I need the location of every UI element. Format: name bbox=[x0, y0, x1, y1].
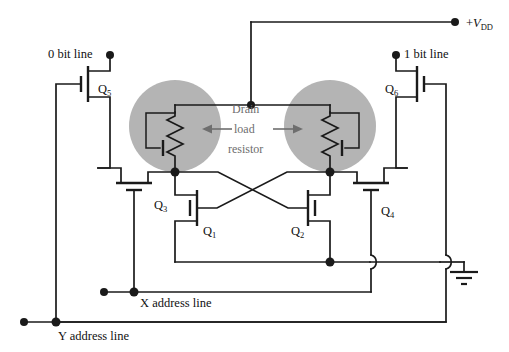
transistor-q1 bbox=[175, 172, 197, 262]
cross-coupling-left-to-right bbox=[175, 172, 308, 208]
label-q2: Q2 bbox=[291, 224, 304, 240]
transistor-q4 bbox=[330, 168, 407, 292]
label-q3: Q3 bbox=[154, 198, 167, 214]
y-address-terminal-dot bbox=[20, 318, 28, 326]
label-q4: Q4 bbox=[381, 204, 395, 220]
y-address-junction-dot bbox=[52, 318, 61, 327]
svg-text:Q2: Q2 bbox=[291, 224, 304, 240]
y-address-label: Y address line bbox=[58, 329, 129, 343]
vdd-prefix: + bbox=[466, 16, 473, 30]
svg-text:Q1: Q1 bbox=[203, 224, 216, 240]
cross-coupling-right-to-left bbox=[197, 172, 330, 208]
source-junction-dot bbox=[326, 258, 335, 267]
bit-line-0-label: 0 bit line bbox=[48, 47, 93, 61]
x-address-terminal-dot bbox=[100, 288, 108, 296]
x-address-junction-dot bbox=[130, 288, 139, 297]
annotation-line1: Drain bbox=[232, 102, 259, 116]
bit-line-1-label: 1 bit line bbox=[404, 47, 449, 61]
vdd-subscript: DD bbox=[481, 22, 493, 32]
label-q6: Q6 bbox=[385, 82, 398, 98]
label-q5: Q5 bbox=[98, 82, 111, 98]
ground-connection bbox=[370, 262, 478, 284]
bit-line-1 bbox=[392, 51, 400, 59]
transistor-q3 bbox=[98, 168, 175, 292]
bit-line-0-dot bbox=[106, 51, 114, 59]
annotation-line3: resistor bbox=[228, 142, 263, 156]
y-address-line bbox=[20, 318, 446, 327]
x-address-label: X address line bbox=[140, 296, 212, 310]
svg-text:+VDD: +VDD bbox=[466, 16, 493, 32]
vdd-label: +VDD bbox=[466, 16, 493, 32]
ram-cell-schematic: 0 bit line 1 bit line +VDD Drain load re… bbox=[0, 0, 509, 352]
svg-text:Q5: Q5 bbox=[98, 82, 111, 98]
svg-text:Q3: Q3 bbox=[154, 198, 167, 214]
source-rail bbox=[175, 258, 370, 267]
bit-line-1-dot bbox=[392, 51, 400, 59]
transistor-q2 bbox=[308, 172, 330, 262]
label-q1: Q1 bbox=[203, 224, 216, 240]
svg-text:Q4: Q4 bbox=[381, 204, 395, 220]
vdd-terminal-dot bbox=[451, 18, 459, 26]
svg-text:Q6: Q6 bbox=[385, 82, 398, 98]
annotation-line2: load bbox=[234, 122, 255, 136]
bit-line-0 bbox=[106, 51, 114, 59]
